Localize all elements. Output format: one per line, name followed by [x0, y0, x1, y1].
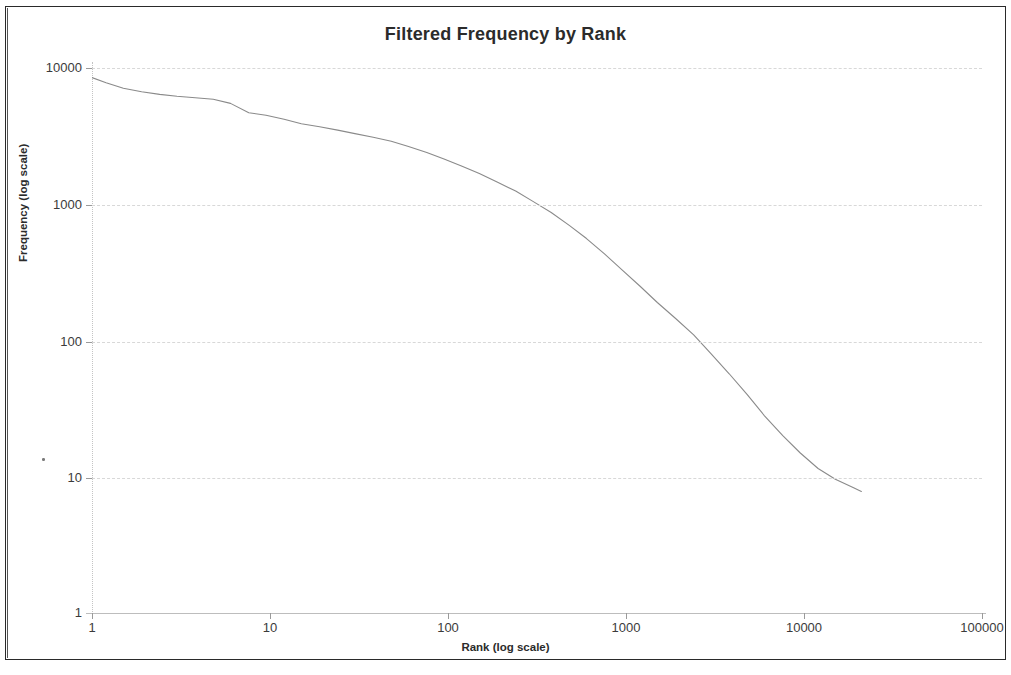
gridline-10 — [92, 478, 982, 479]
x-tick-label-100000: 100000 — [960, 620, 1003, 635]
frequency-rank-curve — [92, 68, 982, 613]
y-axis-tick-labels: 10000 1000 100 10 1 — [0, 0, 82, 675]
gridline-100 — [92, 342, 982, 343]
gridline-1000 — [92, 205, 982, 206]
y-tick-label-10: 10 — [68, 470, 82, 485]
x-tick-label-100: 100 — [437, 620, 459, 635]
x-axis-title: Rank (log scale) — [0, 641, 1011, 653]
gridline-10000 — [92, 68, 982, 69]
page-title: Filtered Frequency by Rank — [0, 24, 1011, 45]
x-tick-label-10000: 10000 — [786, 620, 822, 635]
chart-page: Filtered Frequency by Rank 10000 1000 10… — [0, 0, 1011, 675]
x-tick-label-1: 1 — [88, 620, 95, 635]
x-tick-mark-10000 — [804, 613, 805, 619]
y-tick-label-1: 1 — [75, 605, 82, 620]
plot-area — [92, 68, 982, 613]
y-axis-title: Frequency (log scale) — [17, 144, 29, 262]
scan-speck-artifact — [42, 458, 45, 461]
x-tick-mark-10 — [270, 613, 271, 619]
x-tick-mark-100 — [448, 613, 449, 619]
x-axis-line — [86, 613, 986, 614]
y-tick-label-1000: 1000 — [53, 197, 82, 212]
x-tick-label-10: 10 — [263, 620, 277, 635]
y-tick-label-100: 100 — [60, 334, 82, 349]
y-tick-label-10000: 10000 — [46, 60, 82, 75]
x-tick-mark-1 — [92, 613, 93, 619]
x-tick-mark-1000 — [626, 613, 627, 619]
x-tick-mark-100000 — [982, 613, 983, 619]
x-tick-label-1000: 1000 — [612, 620, 641, 635]
